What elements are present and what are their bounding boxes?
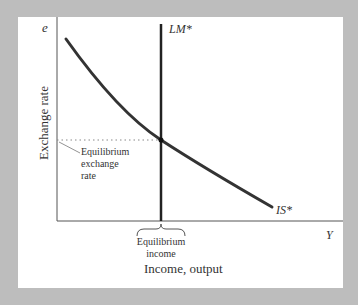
y-axis-symbol: e: [42, 20, 48, 36]
equilibrium-rate-label: Equilibrium exchange rate: [81, 146, 129, 182]
is-label: IS*: [276, 203, 292, 218]
diagram-panel: e LM* IS* Y Exchange rate Equilibrium ex…: [18, 17, 343, 288]
equilibrium-rate-leader: [59, 142, 80, 153]
lm-label: LM*: [169, 22, 192, 37]
y-axis-label: Exchange rate: [36, 68, 52, 178]
equilibrium-income-label: Equilibrium income: [135, 236, 187, 260]
x-axis-label: Income, output: [144, 261, 223, 277]
equilibrium-point: [159, 138, 164, 143]
equilibrium-income-brace: [137, 224, 185, 236]
x-axis-symbol: Y: [326, 228, 333, 243]
